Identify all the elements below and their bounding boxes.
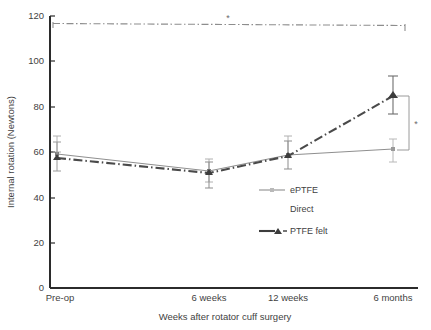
- y-axis-title: Internal rotation (Newtons): [5, 96, 16, 208]
- x-tick-label-pre-op: Pre-op: [46, 292, 75, 303]
- legend-marker-square-icon: [270, 188, 274, 192]
- x-axis-title: Weeks after rotator cuff surgery: [159, 311, 292, 322]
- y-tick-label-20: 20: [33, 237, 44, 248]
- y-tick-label-0: 0: [39, 282, 44, 293]
- top-significance-bracket: *: [53, 13, 405, 31]
- legend-marker-triangle-icon: [274, 228, 282, 234]
- y-tick-label-80: 80: [33, 101, 44, 112]
- x-tick-label-12-weeks: 12 weeks: [268, 292, 308, 303]
- y-tick-label-120: 120: [28, 10, 44, 21]
- legend-item-direct[interactable]: Direct: [290, 204, 314, 214]
- y-tick-label-60: 60: [33, 146, 44, 157]
- x-tick-label-6-months: 6 months: [373, 292, 412, 303]
- legend-label-eptfe: ePTFE: [290, 185, 318, 195]
- series-ptfe-felt-line: [57, 96, 393, 173]
- data-point-ptfe-felt-6-months: [388, 91, 398, 98]
- legend-item-ptfe-felt[interactable]: PTFE felt: [259, 226, 328, 236]
- data-point-eptfe-6-months: [391, 147, 395, 151]
- right-significance-asterisk: *: [414, 119, 418, 129]
- series-ptfe-felt-markers: [53, 91, 398, 175]
- legend-item-eptfe[interactable]: ePTFE: [259, 185, 318, 195]
- chart-legend: ePTFE Direct PTFE felt: [259, 185, 328, 236]
- legend-label-direct: Direct: [290, 204, 314, 214]
- top-bracket-line: [53, 24, 405, 26]
- chart-figure: 0 20 40 60 80 100 120 Internal rotation …: [0, 0, 431, 330]
- y-tick-label-100: 100: [28, 55, 44, 66]
- data-point-ptfe-felt-pre-op: [53, 154, 61, 160]
- y-tick-label-40: 40: [33, 192, 44, 203]
- line-chart: 0 20 40 60 80 100 120 Internal rotation …: [0, 0, 431, 330]
- right-significance-bracket: *: [397, 96, 418, 150]
- x-tick-label-6-weeks: 6 weeks: [192, 292, 227, 303]
- legend-label-ptfe-felt: PTFE felt: [290, 226, 328, 236]
- series-ptfe-felt-error-bars: [53, 76, 398, 188]
- top-significance-asterisk: *: [226, 13, 230, 23]
- series-eptfe-line: [57, 149, 393, 171]
